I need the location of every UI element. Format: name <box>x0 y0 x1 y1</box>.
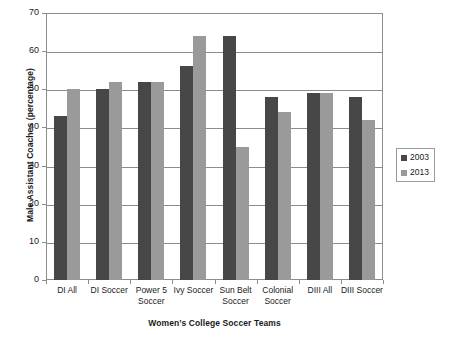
y-axis-tick: 40 <box>0 127 46 128</box>
chart-legend: 20032013 <box>396 148 435 182</box>
x-axis-tick-mark <box>46 280 47 284</box>
legend-label: 2013 <box>410 168 429 177</box>
x-axis-labels: DI AllDI SoccerPower 5 SoccerIvy SoccerS… <box>46 285 383 307</box>
gridline <box>47 90 382 91</box>
x-axis-category-label: DI Soccer <box>88 285 130 307</box>
x-axis-title: Women’s College Soccer Teams <box>46 318 383 328</box>
plot-area <box>46 13 383 280</box>
y-axis-ticks: 010203040506070 <box>0 13 46 280</box>
y-axis-tick-label: 70 <box>29 7 39 18</box>
y-axis-tick: 20 <box>0 204 46 205</box>
gridline <box>47 128 382 129</box>
x-axis-category-label: Sun Belt Soccer <box>215 285 257 307</box>
y-axis-tick-label: 60 <box>29 45 39 56</box>
gridline <box>47 243 382 244</box>
x-axis-category-label: Colonial Soccer <box>257 285 299 307</box>
legend-item: 2013 <box>401 168 429 177</box>
x-axis-tick-mark <box>130 280 131 284</box>
y-axis-tick: 60 <box>0 51 46 52</box>
y-axis-tick: 30 <box>0 166 46 167</box>
x-axis-category-label: DI All <box>46 285 88 307</box>
x-axis-tick-mark <box>257 280 258 284</box>
y-axis-tick-label: 10 <box>29 236 39 247</box>
bar-chart: Male Assistant Coaches (percentage) 0102… <box>0 0 449 340</box>
gridline <box>47 52 382 53</box>
legend-item: 2003 <box>401 153 429 162</box>
y-axis-tick: 10 <box>0 242 46 243</box>
y-axis-tick-label: 0 <box>34 274 39 285</box>
y-axis-tick-label: 30 <box>29 160 39 171</box>
y-axis-tick: 70 <box>0 13 46 14</box>
y-axis-tick: 0 <box>0 280 46 281</box>
y-axis-tick-label: 50 <box>29 83 39 94</box>
x-axis-tick-mark <box>88 280 89 284</box>
x-axis-tick-mark <box>172 280 173 284</box>
gridline <box>47 167 382 168</box>
y-axis-tick: 50 <box>0 89 46 90</box>
legend-swatch-icon <box>401 170 407 176</box>
x-axis-category-label: DIII Soccer <box>341 285 383 307</box>
x-axis-category-label: Power 5 Soccer <box>130 285 172 307</box>
x-axis-category-label: Ivy Soccer <box>172 285 214 307</box>
x-axis-tick-mark <box>299 280 300 284</box>
x-axis-category-label: DIII All <box>299 285 341 307</box>
gridline <box>47 205 382 206</box>
legend-label: 2003 <box>410 153 429 162</box>
y-axis-tick-label: 40 <box>29 121 39 132</box>
legend-swatch-icon <box>401 155 407 161</box>
x-axis-tick-mark <box>341 280 342 284</box>
x-axis-tick-mark <box>215 280 216 284</box>
x-axis-tick-mark <box>383 280 384 284</box>
gridlines <box>47 14 382 279</box>
y-axis-tick-label: 20 <box>29 198 39 209</box>
